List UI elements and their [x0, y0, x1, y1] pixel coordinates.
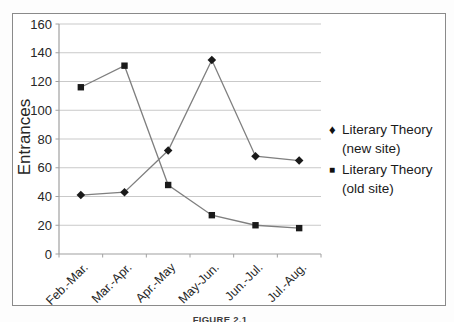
figure-scan: 020406080100120140160Feb.-Mar.Mar.-Apr.A…: [0, 0, 454, 322]
svg-text:140: 140: [30, 45, 52, 60]
svg-text:Mar.-Apr.: Mar.-Apr.: [89, 260, 135, 305]
legend-entry-old-site: ■ Literary Theory (old site): [329, 161, 443, 198]
svg-text:Feb.-Mar.: Feb.-Mar.: [43, 260, 91, 305]
svg-text:0: 0: [45, 247, 52, 262]
svg-text:Jun.-Jul.: Jun.-Jul.: [222, 260, 265, 303]
square-marker-icon: ■: [329, 161, 342, 180]
chart-frame: 020406080100120140160Feb.-Mar.Mar.-Apr.A…: [12, 13, 446, 306]
legend-label-old-site: Literary Theory (old site): [342, 161, 443, 198]
svg-text:Jul.-Aug.: Jul.-Aug.: [264, 260, 309, 305]
svg-text:160: 160: [30, 17, 52, 32]
svg-text:120: 120: [30, 74, 52, 89]
svg-text:60: 60: [38, 160, 52, 175]
svg-text:Entrances: Entrances: [15, 99, 34, 176]
figure-caption: FIGURE 2.1: [140, 314, 300, 322]
legend-entry-new-site: ♦ Literary Theory (new site): [329, 121, 443, 158]
svg-text:20: 20: [38, 218, 52, 233]
chart-legend: ♦ Literary Theory (new site) ■ Literary …: [329, 121, 443, 201]
legend-label-new-site: Literary Theory (new site): [342, 121, 443, 158]
svg-text:40: 40: [38, 189, 52, 204]
svg-text:Apr.-May: Apr.-May: [133, 260, 179, 305]
svg-text:80: 80: [38, 132, 52, 147]
svg-text:May-Jun.: May-Jun.: [176, 260, 222, 305]
diamond-marker-icon: ♦: [329, 121, 342, 140]
